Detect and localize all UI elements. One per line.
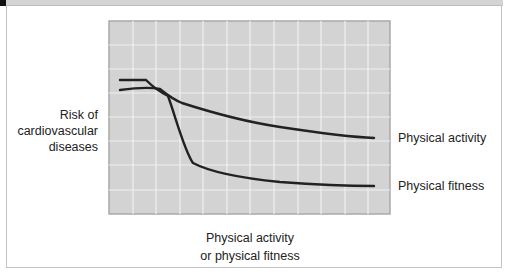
y-axis-label-line: cardiovascular	[17, 123, 98, 139]
x-axis-label-line: Physical activity	[150, 229, 350, 247]
legend-physical-activity: Physical activity	[398, 131, 486, 145]
y-axis-label: Risk of cardiovascular diseases	[17, 107, 98, 155]
x-axis-label: Physical activity or physical fitness	[150, 229, 350, 265]
x-axis-label-line: or physical fitness	[150, 247, 350, 265]
y-axis-label-line: diseases	[17, 139, 98, 155]
legend-physical-fitness: Physical fitness	[398, 179, 484, 193]
y-axis-label-line: Risk of	[17, 107, 98, 123]
